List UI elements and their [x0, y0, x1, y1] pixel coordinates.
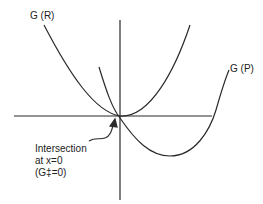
annotation-line-2: at x=0 [35, 155, 63, 166]
arrowhead-icon [110, 119, 117, 127]
diagram: G (R) G (P) Intersection at x=0 (G‡=0) [0, 0, 263, 204]
annotation-line-1: Intersection [35, 143, 87, 154]
curve-g-r [44, 25, 190, 116]
label-g-r: G (R) [30, 10, 54, 21]
annotation-line-3: (G‡=0) [35, 167, 66, 178]
label-g-p: G (P) [230, 63, 254, 74]
curve-g-p [99, 67, 229, 156]
